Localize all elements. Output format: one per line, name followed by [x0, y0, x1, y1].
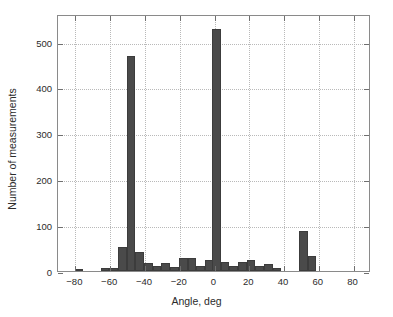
y-axis-label: Number of measurements [6, 59, 18, 239]
y-tick-mark-right [364, 227, 369, 228]
plot-area [57, 15, 370, 272]
x-tick-mark [145, 266, 146, 271]
y-tick-mark-right [364, 44, 369, 45]
x-tick-mark [249, 266, 250, 271]
x-tick-label: 60 [313, 276, 324, 287]
x-tick-mark [110, 266, 111, 271]
x-tick-mark-top [215, 16, 216, 21]
x-tick-mark [75, 266, 76, 271]
x-tick-mark-top [354, 16, 355, 21]
x-tick-label: −60 [101, 276, 117, 287]
y-tick-mark [58, 227, 63, 228]
y-tick-mark [58, 181, 63, 182]
x-tick-mark-top [249, 16, 250, 21]
x-tick-mark-top [110, 16, 111, 21]
x-tick-label: 80 [347, 276, 358, 287]
y-tick-label: 200 [12, 175, 52, 186]
x-tick-label: 40 [278, 276, 289, 287]
y-tick-mark-right [364, 89, 369, 90]
x-tick-label: −40 [136, 276, 152, 287]
x-tick-mark-top [319, 16, 320, 21]
x-tick-label: −80 [66, 276, 82, 287]
histogram-figure: −80−60−40−20020406080 0100200300400500 A… [0, 0, 393, 317]
x-tick-mark-top [145, 16, 146, 21]
x-tick-mark [215, 266, 216, 271]
y-tick-label: 100 [12, 221, 52, 232]
y-tick-mark-right [364, 273, 369, 274]
x-tick-mark-top [75, 16, 76, 21]
y-tick-mark-right [364, 181, 369, 182]
y-tick-mark-right [364, 135, 369, 136]
y-tick-label: 300 [12, 129, 52, 140]
x-tick-mark-top [284, 16, 285, 21]
x-tick-mark [180, 266, 181, 271]
x-tick-label: 0 [211, 276, 216, 287]
y-tick-mark [58, 135, 63, 136]
x-tick-label: 20 [243, 276, 254, 287]
x-axis-label: Angle, deg [0, 295, 393, 307]
tick-marks-layer [58, 16, 369, 271]
y-tick-label: 400 [12, 83, 52, 94]
x-tick-mark [319, 266, 320, 271]
y-tick-mark [58, 44, 63, 45]
y-tick-label: 500 [12, 37, 52, 48]
x-tick-label: −20 [171, 276, 187, 287]
y-tick-mark [58, 89, 63, 90]
x-tick-mark-top [180, 16, 181, 21]
y-tick-mark [58, 273, 63, 274]
x-tick-mark [354, 266, 355, 271]
y-tick-label: 0 [12, 267, 52, 278]
x-tick-mark [284, 266, 285, 271]
